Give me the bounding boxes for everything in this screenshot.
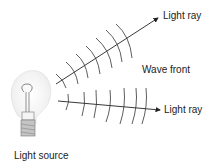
wave-front-diagram bbox=[0, 0, 216, 168]
upper-wave-fronts bbox=[56, 24, 132, 88]
lower-ray-label: Light ray bbox=[164, 104, 202, 115]
lower-light-ray bbox=[58, 101, 160, 110]
wave-front-label: Wave front bbox=[142, 64, 190, 75]
light-bulb-icon bbox=[11, 71, 51, 136]
light-source-label: Light source bbox=[14, 150, 68, 161]
upper-ray-label: Light ray bbox=[163, 10, 201, 21]
lower-wave-fronts bbox=[66, 88, 147, 124]
